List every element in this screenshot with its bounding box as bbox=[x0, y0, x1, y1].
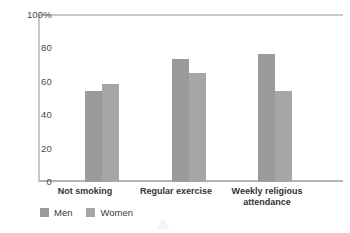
bar-men-regular-exercise bbox=[172, 59, 189, 182]
scan-artifact bbox=[156, 219, 170, 229]
legend-swatch-icon-men bbox=[40, 208, 49, 217]
legend-item-women[interactable]: Women bbox=[86, 207, 133, 218]
category-label-regular-exercise: Regular exercise bbox=[135, 186, 217, 197]
legend-label-men: Men bbox=[54, 207, 72, 218]
category-label-weekly-religious-attendance: Weekly religious attendance bbox=[228, 186, 306, 208]
legend-swatch-icon-women bbox=[86, 208, 95, 217]
bars-layer bbox=[38, 14, 343, 182]
category-label-not-smoking: Not smoking bbox=[47, 186, 123, 197]
bar-group-not-smoking bbox=[85, 14, 119, 182]
legend-label-women: Women bbox=[100, 207, 133, 218]
legend-item-men[interactable]: Men bbox=[40, 207, 72, 218]
bar-group-weekly-religious-attendance bbox=[258, 14, 292, 182]
bar-men-weekly-religious-attendance bbox=[258, 54, 275, 182]
bar-group-regular-exercise bbox=[172, 14, 206, 182]
bar-women-regular-exercise bbox=[189, 73, 206, 182]
chart-legend: Men Women bbox=[40, 207, 133, 218]
bar-women-not-smoking bbox=[102, 84, 119, 182]
bar-women-weekly-religious-attendance bbox=[275, 91, 292, 182]
bar-men-not-smoking bbox=[85, 91, 102, 182]
bar-chart: 100% 80 60 40 20 0 Not smoking Regular e… bbox=[0, 0, 350, 233]
